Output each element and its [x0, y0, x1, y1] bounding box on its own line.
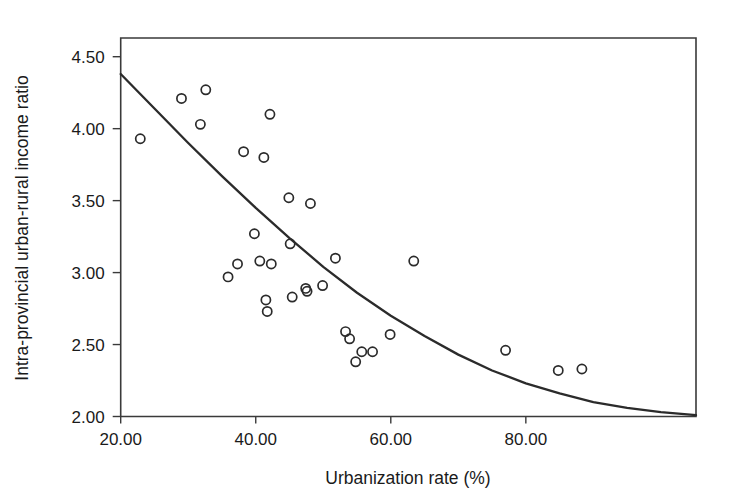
data-point-marker — [577, 364, 586, 373]
data-point-marker — [136, 134, 145, 143]
x-tick-label: 80.00 — [505, 430, 548, 449]
data-point-marker — [196, 120, 205, 129]
data-point-marker — [409, 256, 418, 265]
x-axis-ticks — [121, 417, 526, 424]
x-tick-label: 20.00 — [99, 430, 142, 449]
data-point-marker — [357, 347, 366, 356]
x-tick-label: 60.00 — [370, 430, 413, 449]
y-tick-label: 4.50 — [72, 48, 105, 67]
data-point-marker — [351, 357, 360, 366]
data-point-marker — [177, 94, 186, 103]
data-point-marker — [201, 85, 210, 94]
y-axis-title: Intra-provincial urban-rural income rati… — [12, 75, 32, 380]
data-point-marker — [318, 281, 327, 290]
x-axis-tick-labels: 20.0040.0060.0080.00 — [99, 430, 547, 449]
data-point-marker — [284, 193, 293, 202]
data-point-markers — [136, 85, 587, 375]
y-axis-tick-labels: 2.002.503.003.504.004.50 — [72, 48, 105, 427]
data-point-marker — [233, 259, 242, 268]
data-point-marker — [306, 199, 315, 208]
data-point-marker — [259, 153, 268, 162]
data-point-marker — [261, 295, 270, 304]
data-point-marker — [554, 366, 563, 375]
y-tick-label: 3.50 — [72, 192, 105, 211]
trend-line-path — [121, 74, 696, 415]
data-point-marker — [368, 347, 377, 356]
data-point-marker — [286, 239, 295, 248]
fitted-trend-curve — [121, 74, 696, 415]
data-point-marker — [501, 346, 510, 355]
scatter-plot-figure: 20.0040.0060.0080.00 2.002.503.003.504.0… — [0, 0, 733, 503]
data-point-marker — [345, 334, 354, 343]
data-point-marker — [255, 256, 264, 265]
y-tick-label: 4.00 — [72, 120, 105, 139]
data-point-marker — [265, 110, 274, 119]
x-axis-title: Urbanization rate (%) — [325, 468, 490, 488]
data-point-marker — [250, 229, 259, 238]
data-point-marker — [239, 147, 248, 156]
y-axis-ticks — [113, 57, 121, 417]
data-point-marker — [223, 272, 232, 281]
data-point-marker — [331, 254, 340, 263]
data-point-marker — [386, 330, 395, 339]
data-point-marker — [267, 259, 276, 268]
y-tick-label: 2.00 — [72, 408, 105, 427]
y-tick-label: 3.00 — [72, 264, 105, 283]
y-tick-label: 2.50 — [72, 336, 105, 355]
data-point-marker — [263, 307, 272, 316]
x-tick-label: 40.00 — [234, 430, 277, 449]
chart-canvas: 20.0040.0060.0080.00 2.002.503.003.504.0… — [0, 0, 733, 503]
data-point-marker — [288, 292, 297, 301]
